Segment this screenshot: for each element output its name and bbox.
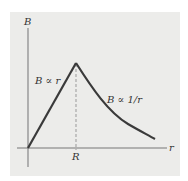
y-axis-label: B [24, 17, 31, 27]
annotation-inside: B ∝ r [35, 76, 60, 86]
annotation-outside: B ∝ 1/r [107, 95, 142, 105]
field-plot [0, 0, 188, 181]
tick-label-R: R [72, 152, 80, 162]
x-axis-label: r [169, 143, 174, 153]
